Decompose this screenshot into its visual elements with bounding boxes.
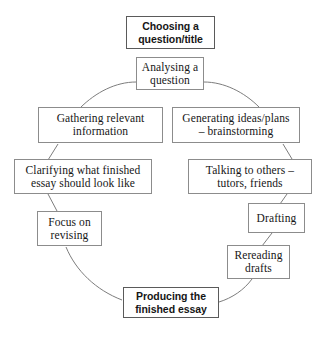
essay-process-diagram: Choosing a question/title Analysing a qu… xyxy=(0,0,336,337)
node-generating-ideas-plans[interactable]: Generating ideas/plans – brainstorming xyxy=(172,107,300,143)
node-label: Focus on revising xyxy=(48,216,91,242)
node-clarifying-finished-essay[interactable]: Clarifying what finished essay should lo… xyxy=(14,159,152,194)
node-producing-finished-essay[interactable]: Producing the finished essay xyxy=(123,287,219,318)
node-label: Drafting xyxy=(257,212,297,225)
node-talking-to-others[interactable]: Talking to others – tutors, friends xyxy=(188,159,312,194)
node-gathering-relevant-information[interactable]: Gathering relevant information xyxy=(38,107,163,143)
node-label: Clarifying what finished essay should lo… xyxy=(26,164,141,190)
node-label: Choosing a question/title xyxy=(138,20,203,45)
node-label: Producing the finished essay xyxy=(135,290,207,315)
node-label: Talking to others – tutors, friends xyxy=(206,164,294,190)
node-label: Generating ideas/plans – brainstorming xyxy=(182,112,289,138)
connector-rereading-to-producing xyxy=(219,279,252,302)
node-rereading-drafts[interactable]: Rereading drafts xyxy=(227,245,290,279)
node-label: Analysing a question xyxy=(142,61,198,87)
connector-focus-to-producing xyxy=(66,247,122,300)
connector-analysing-to-generating xyxy=(204,82,259,107)
node-label: Gathering relevant information xyxy=(57,112,145,138)
node-drafting[interactable]: Drafting xyxy=(248,203,305,233)
node-analysing-question[interactable]: Analysing a question xyxy=(136,57,204,90)
connector-gathering-to-clarifying xyxy=(48,144,58,160)
node-choosing-question-title[interactable]: Choosing a question/title xyxy=(126,16,215,49)
connector-generating-to-talking xyxy=(283,144,292,159)
connector-analysing-to-gathering xyxy=(80,82,136,108)
node-label: Rereading drafts xyxy=(234,249,282,275)
node-focus-on-revising[interactable]: Focus on revising xyxy=(37,211,102,246)
connector-clarifying-to-focus xyxy=(48,194,57,211)
